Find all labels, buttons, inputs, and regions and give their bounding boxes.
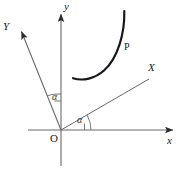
Y-axis-upper-line xyxy=(22,32,62,131)
angle-2-label: α xyxy=(77,115,82,125)
origin-label: O xyxy=(50,133,58,144)
figure-root: y x Y X O P α α xyxy=(0,0,185,169)
diagram-canvas xyxy=(0,0,185,169)
X-axis-upper-label: X xyxy=(148,62,155,73)
y-axis-lower-label: y xyxy=(64,1,69,12)
point-P-label: P xyxy=(124,42,130,52)
Y-axis-upper-label: Y xyxy=(3,21,9,32)
angle-1-label: α xyxy=(52,92,57,102)
X-axis-upper-line xyxy=(61,79,149,130)
angle-2-arc xyxy=(87,115,91,130)
thick-arc-P xyxy=(73,11,124,80)
x-axis-lower-label: x xyxy=(167,135,172,146)
